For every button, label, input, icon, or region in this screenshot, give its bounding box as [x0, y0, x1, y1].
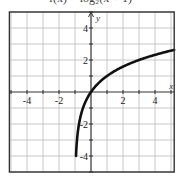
y-tick-label: -4 [80, 151, 88, 162]
plot-area: -4-22442-2-4xy [0, 0, 181, 178]
y-axis-label: y [95, 13, 100, 23]
x-tick-label: 4 [153, 95, 158, 106]
x-axis-label: x [168, 81, 173, 91]
x-tick-label: -4 [23, 95, 31, 106]
y-tick-label: 2 [83, 55, 88, 66]
y-tick-label: 4 [83, 23, 88, 34]
x-tick-label: -2 [55, 95, 63, 106]
x-tick-label: 2 [121, 95, 126, 106]
